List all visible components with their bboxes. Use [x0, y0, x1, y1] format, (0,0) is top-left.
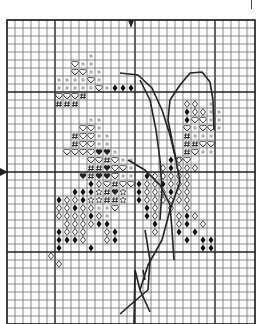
- square-symbol: [218, 119, 221, 122]
- filled-heart-symbol: [104, 165, 111, 171]
- filled-diamond-symbol: [81, 189, 86, 196]
- filled-heart-symbol: [80, 173, 87, 179]
- square-symbol: [106, 135, 109, 138]
- heart-symbol: [64, 93, 71, 99]
- backstitch-line: [134, 270, 135, 324]
- filled-diamond-symbol: [137, 181, 142, 188]
- square-symbol: [210, 103, 213, 106]
- heart-symbol: [120, 165, 127, 171]
- square-symbol: [98, 135, 101, 138]
- diamond-symbol: [185, 205, 190, 212]
- hash-symbol: [64, 101, 70, 107]
- filled-diamond-symbol: [89, 213, 94, 220]
- diamond-symbol: [153, 213, 158, 220]
- filled-heart-symbol: [104, 173, 111, 179]
- filled-diamond-symbol: [73, 189, 78, 196]
- hash-symbol: [184, 141, 190, 147]
- filled-diamond-symbol: [57, 229, 62, 236]
- square-symbol: [218, 127, 221, 130]
- diamond-symbol: [97, 213, 102, 220]
- filled-heart-symbol: [112, 189, 119, 195]
- filled-heart-symbol: [96, 173, 103, 179]
- filled-diamond-symbol: [89, 189, 94, 196]
- diamond-symbol: [73, 197, 78, 204]
- diamond-symbol: [81, 229, 86, 236]
- diamond-symbol: [81, 237, 86, 244]
- filled-diamond-symbol: [113, 85, 118, 92]
- heart-symbol: [96, 85, 103, 91]
- square-symbol: [194, 135, 197, 138]
- diamond-symbol: [57, 213, 62, 220]
- heart-symbol: [88, 141, 95, 147]
- square-symbol: [218, 111, 221, 114]
- diamond-symbol: [193, 165, 198, 172]
- heart-symbol: [184, 157, 191, 163]
- diamond-symbol: [145, 181, 150, 188]
- heart-symbol: [120, 181, 127, 187]
- square-symbol: [82, 79, 85, 82]
- filled-diamond-symbol: [57, 197, 62, 204]
- heart-symbol: [72, 149, 79, 155]
- heart-symbol: [200, 117, 207, 123]
- square-symbol: [122, 159, 125, 162]
- heart-symbol: [184, 125, 191, 131]
- diamond-symbol: [153, 197, 158, 204]
- heart-symbol: [88, 125, 95, 131]
- hash-symbol: [80, 93, 86, 99]
- diamond-symbol: [185, 197, 190, 204]
- square-symbol: [98, 143, 101, 146]
- filled-diamond-symbol: [113, 237, 118, 244]
- heart-symbol: [80, 149, 87, 155]
- heart-symbol: [112, 173, 119, 179]
- diamond-symbol: [145, 197, 150, 204]
- diamond-symbol: [65, 221, 70, 228]
- heart-symbol: [112, 165, 119, 171]
- square-symbol: [210, 151, 213, 154]
- square-symbol: [122, 175, 125, 178]
- filled-diamond-symbol: [89, 181, 94, 188]
- page-margin-tick: [251, 0, 252, 9]
- diamond-symbol: [65, 213, 70, 220]
- heart-symbol: [56, 93, 63, 99]
- heart-symbol: [72, 93, 79, 99]
- square-symbol: [202, 135, 205, 138]
- hash-symbol: [104, 189, 110, 195]
- square-symbol: [58, 87, 61, 90]
- filled-diamond-symbol: [185, 221, 190, 228]
- square-symbol: [98, 71, 101, 74]
- diamond-symbol: [169, 181, 174, 188]
- heart-symbol: [200, 141, 207, 147]
- hash-symbol: [184, 133, 190, 139]
- heart-symbol: [208, 141, 215, 147]
- square-symbol: [90, 71, 93, 74]
- heart-symbol: [80, 141, 87, 147]
- star-symbol: [120, 189, 126, 195]
- diamond-symbol: [105, 229, 110, 236]
- cross-stitch-chart: [0, 0, 278, 324]
- center-arrow-top-icon: [128, 20, 134, 28]
- square-symbol: [74, 87, 77, 90]
- diamond-symbol: [185, 189, 190, 196]
- diamond-symbol: [169, 173, 174, 180]
- filled-diamond-symbol: [97, 221, 102, 228]
- diamond-symbol: [97, 181, 102, 188]
- filled-diamond-symbol: [169, 157, 174, 164]
- filled-diamond-symbol: [121, 85, 126, 92]
- filled-diamond-symbol: [185, 117, 190, 124]
- diamond-symbol: [105, 237, 110, 244]
- filled-diamond-symbol: [73, 237, 78, 244]
- heart-symbol: [88, 77, 95, 83]
- square-symbol: [98, 207, 101, 210]
- star-symbol: [88, 197, 94, 203]
- diamond-symbol: [185, 101, 190, 108]
- hash-symbol: [88, 173, 94, 179]
- square-symbol: [106, 215, 109, 218]
- filled-diamond-symbol: [177, 229, 182, 236]
- filled-diamond-symbol: [57, 245, 62, 252]
- filled-diamond-symbol: [209, 245, 214, 252]
- heart-symbol: [96, 157, 103, 163]
- hash-symbol: [192, 141, 198, 147]
- filled-diamond-symbol: [105, 221, 110, 228]
- heart-symbol: [72, 61, 79, 67]
- diamond-symbol: [185, 165, 190, 172]
